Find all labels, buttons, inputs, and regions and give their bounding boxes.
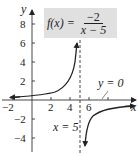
right-branch-arrow [125, 106, 135, 107]
formula-lhs: f(x) = [47, 16, 75, 31]
x-axis-label: x [130, 100, 137, 114]
x-tick-label: 6 [86, 101, 92, 113]
y-tick-label: 4 [20, 56, 26, 68]
vertical-asymptote-label: x = 5 [53, 120, 78, 135]
x-tick-label: 2 [48, 101, 54, 113]
x-tick-label: 4 [67, 101, 73, 113]
formula-denominator: x − 5 [79, 24, 108, 36]
x-tick-label: −2 [2, 101, 14, 113]
left-branch-curve [13, 43, 77, 97]
formula-numerator: −2 [84, 11, 103, 24]
y-tick-label: 2 [20, 75, 26, 87]
function-formula: f(x) = −2 x − 5 [47, 9, 117, 37]
y-tick-label: −2 [14, 113, 26, 125]
horizontal-asymptote-label: y = 0 [98, 76, 123, 91]
y-tick-label: 8 [20, 18, 26, 30]
horizontal-asymptote-leader [102, 91, 108, 99]
right-branch-curve [85, 106, 134, 146]
y-tick-label: 6 [20, 37, 26, 49]
left-branch-arrow [10, 97, 20, 98]
y-tick-label: −4 [14, 132, 26, 144]
formula-fraction: −2 x − 5 [79, 11, 108, 36]
y-axis-label: y [20, 2, 27, 16]
